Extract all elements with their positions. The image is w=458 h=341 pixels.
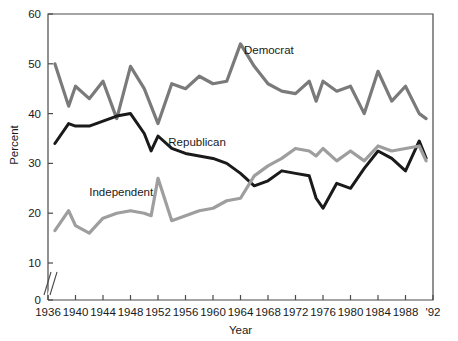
x-tick-label: 1960 [200, 306, 226, 318]
y-axis-title: Percent [8, 124, 20, 164]
y-tick-label: 20 [28, 207, 41, 219]
x-tick-label: 1984 [365, 306, 391, 318]
x-tick-label: 1976 [310, 306, 336, 318]
x-tick-label: 1940 [63, 306, 89, 318]
y-tick-label: 30 [28, 157, 41, 169]
y-tick-label: 50 [28, 58, 41, 70]
x-tick-label: '92 [426, 306, 441, 318]
independent-series-label: Independent [89, 186, 154, 198]
party-identification-line-chart: 0102030405060 19361940194419481952195619… [0, 0, 458, 341]
x-tick-label: 1980 [338, 306, 364, 318]
democrat-series-label: Democrat [244, 44, 295, 56]
chart-background [0, 0, 458, 341]
x-tick-label: 1956 [173, 306, 199, 318]
y-tick-label: 10 [28, 257, 41, 269]
x-tick-label: 1936 [35, 306, 61, 318]
x-tick-label: 1964 [228, 306, 254, 318]
republican-series-label: Republican [168, 136, 226, 148]
x-tick-label: 1968 [255, 306, 281, 318]
x-tick-label: 1988 [393, 306, 419, 318]
x-axis-title: Year [229, 324, 252, 336]
chart-container: 0102030405060 19361940194419481952195619… [0, 0, 458, 341]
y-tick-label: 60 [28, 8, 41, 20]
x-tick-label: 1952 [145, 306, 171, 318]
x-tick-label: 1972 [283, 306, 309, 318]
x-tick-label: 1948 [118, 306, 144, 318]
x-tick-label: 1944 [90, 306, 116, 318]
y-tick-label: 0 [35, 294, 41, 306]
y-tick-label: 40 [28, 108, 41, 120]
